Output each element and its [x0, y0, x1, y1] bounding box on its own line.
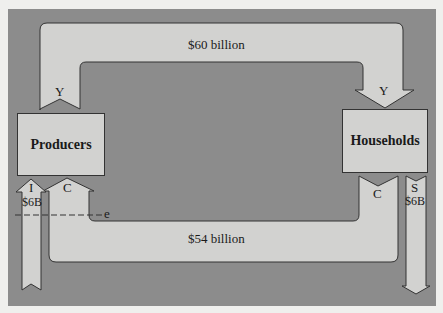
- income-amount-label: $60 billion: [188, 38, 245, 51]
- investment-amount-label: $6B: [22, 196, 42, 208]
- producers-label: Producers: [30, 137, 91, 153]
- income-label-households: Y: [379, 84, 388, 97]
- consumption-label-households: C: [373, 187, 382, 200]
- saving-amount-label: $6B: [405, 195, 425, 207]
- saving-label: S: [411, 181, 418, 194]
- households-label: Households: [350, 133, 419, 149]
- equilibrium-marker-label: e: [104, 207, 110, 220]
- consumption-amount-label: $54 billion: [188, 232, 245, 245]
- investment-label: I: [29, 181, 33, 194]
- producers-node: Producers: [17, 113, 105, 176]
- consumption-flow-arrow: [43, 176, 398, 262]
- households-node: Households: [342, 109, 428, 173]
- consumption-label-producers: C: [63, 181, 72, 194]
- income-label-producers: Y: [55, 85, 64, 98]
